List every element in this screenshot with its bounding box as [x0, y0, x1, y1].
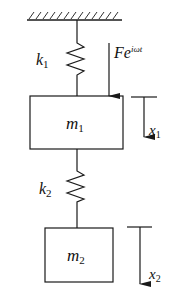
spring-mass-diagram: k1 Feiωt m1 x1 k2 m2 x2 [0, 0, 169, 303]
displacement-x2-label: x2 [148, 266, 161, 284]
force-label: Feiωt [113, 44, 143, 61]
spring-k1 [67, 20, 84, 96]
ground-support [27, 12, 122, 20]
spring-k2-label: k2 [39, 180, 52, 199]
spring-k2 [67, 149, 84, 228]
mass-m1-label: m1 [66, 114, 84, 134]
displacement-x1-label: x1 [148, 122, 161, 140]
spring-k1-label: k1 [36, 51, 49, 70]
ground-hatching [29, 12, 118, 19]
mass-m2-label: m2 [67, 246, 85, 266]
